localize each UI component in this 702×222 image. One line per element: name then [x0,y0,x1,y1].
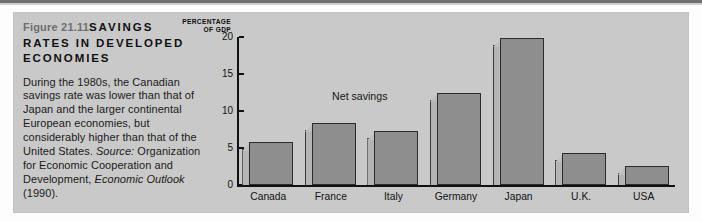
bar-france[interactable] [312,123,356,185]
savings-rates-bar-chart: PERCENTAGE OF GDP 05101520CanadaFranceIt… [206,16,676,208]
source-year: (1990). [23,187,58,199]
y-axis-tick [239,110,244,112]
y-axis-tick-label: 20 [206,32,233,42]
x-axis-line [237,185,675,187]
x-axis-category-label: France [300,191,363,202]
bar-italy[interactable] [374,131,418,185]
bar-side-face [305,130,312,185]
bar-japan[interactable] [500,38,544,185]
bar-side-face [493,45,500,185]
bar-side-face [242,149,249,185]
top-divider-rule-soft [0,3,702,5]
x-axis-category-label: U.K. [550,191,613,202]
bar-usa[interactable] [625,166,669,185]
y-axis-tick-label: 10 [206,106,233,116]
x-axis-category-label: Germany [425,191,488,202]
y-axis-tick [239,36,244,38]
y-axis-tick [239,73,244,75]
bar-canada[interactable] [249,142,293,185]
figure-root: Figure 21.11SAVINGS RATES IN DEVELOPED E… [0,0,702,222]
figure-number: Figure 21.11 [23,21,89,33]
source-label: Source: [96,145,134,157]
x-axis-category-label: Canada [237,191,300,202]
x-axis-category-label: Japan [487,191,550,202]
y-axis-tick-label: 0 [206,180,233,190]
bar-uk[interactable] [562,153,606,185]
source-publication-title: Economic Outlook [95,173,185,185]
chart-annotation-net-savings: Net savings [332,90,387,102]
bar-side-face [367,138,374,185]
x-axis-category-label: Italy [362,191,425,202]
figure-caption-block: Figure 21.11SAVINGS RATES IN DEVELOPED E… [23,20,201,201]
bar-germany[interactable] [437,93,481,186]
figure-caption-text: During the 1980s, the Canadian savings r… [23,76,201,201]
bar-side-face [430,100,437,186]
plot-area: 05101520CanadaFranceItalyGermanyJapanU.K… [206,16,676,208]
bar-side-face [555,160,562,185]
y-axis-tick-label: 15 [206,69,233,79]
y-axis-tick-label: 5 [206,143,233,153]
x-axis-category-label: USA [612,191,675,202]
